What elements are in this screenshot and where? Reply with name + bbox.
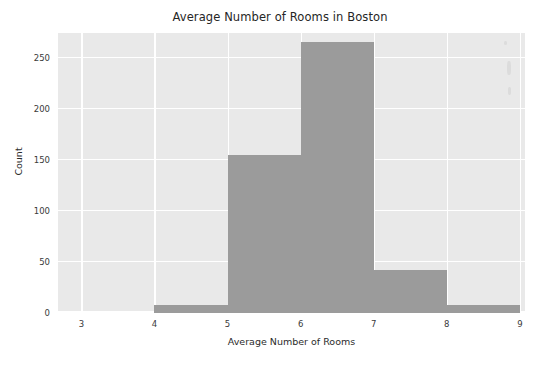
gridline-vertical	[520, 33, 522, 313]
gridline-vertical	[154, 33, 156, 313]
x-tick-label: 4	[134, 319, 174, 329]
gridline-horizontal	[58, 57, 525, 59]
histogram-bar	[228, 155, 301, 313]
x-tick-label: 3	[61, 319, 101, 329]
histogram-bar	[154, 305, 227, 313]
scan-artifact	[504, 41, 507, 45]
y-tick-label: 0	[6, 308, 50, 318]
histogram-bar	[447, 305, 520, 313]
y-axis-ticks: 050100150200250	[0, 33, 50, 313]
x-tick-label: 5	[208, 319, 248, 329]
gridline-horizontal	[58, 108, 525, 110]
x-axis-label: Average Number of Rooms	[58, 336, 525, 347]
y-tick-label: 250	[6, 53, 50, 63]
x-tick-label: 7	[354, 319, 394, 329]
x-axis-ticks: 3456789	[0, 319, 560, 335]
chart-figure: Average Number of Rooms in Boston 050100…	[0, 0, 560, 369]
x-tick-label: 8	[427, 319, 467, 329]
gridline-vertical	[447, 33, 449, 313]
histogram-bar	[301, 42, 374, 313]
y-tick-label: 200	[6, 104, 50, 114]
chart-title: Average Number of Rooms in Boston	[0, 10, 560, 24]
plot-area	[58, 33, 525, 313]
x-tick-label: 6	[281, 319, 321, 329]
histogram-bar	[374, 270, 447, 313]
scan-artifact	[507, 61, 511, 75]
y-tick-label: 100	[6, 206, 50, 216]
y-tick-label: 50	[6, 257, 50, 267]
x-tick-label: 9	[500, 319, 540, 329]
scan-artifact	[508, 87, 511, 95]
gridline-vertical	[81, 33, 83, 313]
y-axis-label: Count	[13, 122, 24, 202]
